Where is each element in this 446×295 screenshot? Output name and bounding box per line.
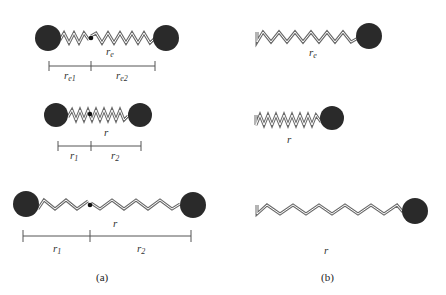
center-of-mass-dot bbox=[89, 36, 94, 41]
spring-compressed bbox=[68, 110, 128, 120]
part1-label: re1 bbox=[64, 69, 76, 83]
panel-b-caption: (b) bbox=[321, 271, 334, 284]
reduced-mass-ball bbox=[356, 23, 382, 49]
part2-label: re2 bbox=[116, 69, 128, 83]
panel-a-row-stretched: r r1 r2 bbox=[13, 191, 206, 256]
mass-ball-right bbox=[153, 25, 179, 51]
spring-left-segment bbox=[38, 200, 88, 209]
length-label: r bbox=[324, 244, 329, 256]
spring-right-segment bbox=[91, 200, 180, 209]
reduced-mass-ball bbox=[320, 106, 344, 130]
scale-bar bbox=[23, 230, 191, 242]
reduced-mass-ball bbox=[402, 198, 428, 224]
spring-reduced bbox=[257, 205, 403, 214]
length-label: r bbox=[113, 217, 118, 229]
length-label: re bbox=[309, 46, 317, 60]
center-of-mass-dot bbox=[88, 203, 93, 208]
part1-label: r1 bbox=[53, 242, 61, 256]
part2-label: r2 bbox=[137, 242, 145, 256]
panel-b-row-equilibrium: re bbox=[257, 23, 382, 60]
part2-label: r2 bbox=[111, 149, 119, 163]
spring-right-segment bbox=[91, 33, 154, 43]
mass-ball-left bbox=[44, 103, 68, 127]
length-label: re bbox=[106, 45, 114, 59]
spring-reduced bbox=[256, 115, 321, 125]
mass-ball-left bbox=[35, 25, 61, 51]
panel-b-row-stretched: r bbox=[257, 198, 428, 256]
panel-a-row-equilibrium: re re1 re2 bbox=[35, 25, 179, 83]
panel-a-row-compressed: r r1 r2 bbox=[44, 103, 152, 163]
spring-left-segment bbox=[60, 33, 89, 43]
mass-ball-right bbox=[180, 192, 206, 218]
panel-a: re re1 re2 r bbox=[13, 25, 206, 284]
center-of-mass-dot bbox=[88, 112, 92, 116]
length-label: r bbox=[287, 133, 292, 145]
mass-ball-right bbox=[128, 103, 152, 127]
mass-ball-left bbox=[13, 191, 39, 217]
panel-b-row-compressed: r bbox=[256, 106, 344, 145]
part1-label: r1 bbox=[70, 149, 78, 163]
length-label: r bbox=[104, 126, 109, 138]
spring-model-diagram: re re1 re2 r bbox=[0, 0, 446, 295]
panel-b: re r r (b) bbox=[256, 23, 428, 284]
panel-a-caption: (a) bbox=[96, 271, 109, 284]
spring-reduced bbox=[257, 32, 358, 42]
